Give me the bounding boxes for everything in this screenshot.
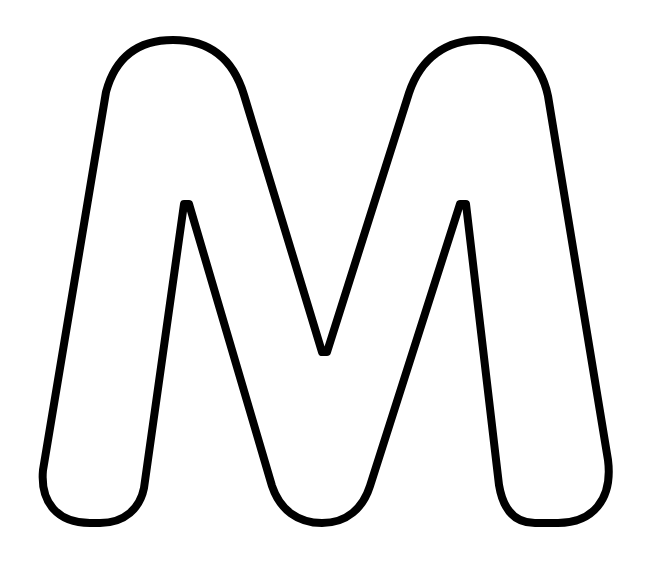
letter-m-outline [0,0,654,561]
